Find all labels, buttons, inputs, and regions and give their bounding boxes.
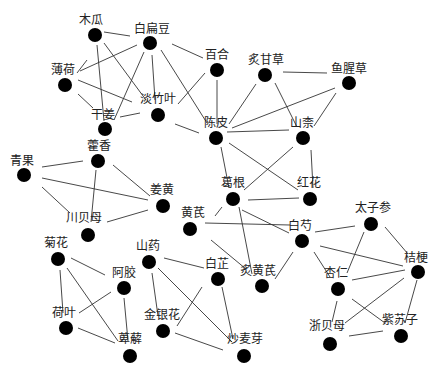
herb-network-graph: 木瓜白扁豆百合薄荷淡竹叶干姜炙甘草鱼腥草陈皮山柰藿香青果姜黄川贝母葛根红花黄芪白… <box>0 0 444 372</box>
graph-edge <box>78 80 132 102</box>
node-label-juhua: 菊花 <box>44 235 68 250</box>
graph-edge <box>177 287 202 326</box>
node-label-bixie: 萆薢 <box>118 332 142 346</box>
node-shanyao <box>142 255 156 269</box>
node-label-jiegeng: 桔梗 <box>404 250 428 265</box>
node-yuxingcao <box>342 76 356 90</box>
graph-edge <box>320 246 403 266</box>
graph-edge <box>349 331 383 336</box>
node-label-xingren: 杏仁 <box>324 266 348 280</box>
graph-edge <box>175 124 199 133</box>
node-bixie <box>123 349 137 363</box>
node-label-zhihuangqi: 炙黄芪 <box>240 263 276 278</box>
graph-edge <box>314 93 336 126</box>
node-label-ganjiang: 干姜 <box>91 108 115 122</box>
graph-edge <box>120 113 140 117</box>
node-huoxiang <box>91 154 105 168</box>
graph-edge <box>352 270 405 280</box>
node-label-jinyinhua: 金银花 <box>144 307 180 322</box>
graph-edge <box>107 210 148 222</box>
node-ganjiang <box>98 122 112 136</box>
graph-edge <box>248 198 299 200</box>
node-huangqi <box>183 222 197 236</box>
node-chaomaiya <box>237 349 251 363</box>
node-label-huangqi: 黄芪 <box>181 206 205 220</box>
node-gegen <box>226 192 240 206</box>
node-label-danzhuye: 淡竹叶 <box>140 92 176 106</box>
node-chuanbeimu <box>81 228 95 242</box>
node-label-heye: 荷叶 <box>52 306 76 320</box>
node-label-chenpi: 陈皮 <box>204 115 228 130</box>
graph-edge <box>227 130 289 132</box>
node-baizhi <box>211 272 225 286</box>
graph-edge <box>244 147 293 190</box>
node-label-jianghuang: 姜黄 <box>150 183 174 197</box>
node-mugua <box>88 28 102 42</box>
graph-edge <box>71 258 105 275</box>
graph-edge <box>161 50 207 123</box>
node-honghua <box>303 192 317 206</box>
node-label-chaomaiya: 炒麦芽 <box>227 332 263 346</box>
node-ejiao <box>117 281 131 295</box>
node-label-shanyao: 山药 <box>136 239 160 253</box>
node-juhua <box>51 252 65 266</box>
node-label-baihe: 百合 <box>205 47 229 62</box>
node-label-zhebeimu: 浙贝母 <box>309 319 345 333</box>
node-chenpi <box>209 131 223 145</box>
node-label-qingguo: 青果 <box>10 154 34 168</box>
graph-edge <box>78 94 93 108</box>
node-heye <box>59 321 73 335</box>
node-label-chuanbeimu: 川贝母 <box>66 211 102 225</box>
node-zhebeimu <box>323 337 337 351</box>
node-label-ejiao: 阿胶 <box>112 265 136 280</box>
node-label-zhigancao: 炙甘草 <box>248 52 284 67</box>
graph-edge <box>164 258 204 268</box>
node-label-baizhi: 白芷 <box>205 256 229 271</box>
node-label-yuxingcao: 鱼腥草 <box>331 62 367 76</box>
graph-edge <box>205 223 290 225</box>
graph-edge <box>172 44 203 58</box>
node-jiegeng <box>411 265 425 279</box>
graph-edge <box>315 226 355 232</box>
node-label-baibiandou: 白扁豆 <box>134 21 170 36</box>
node-label-huoxiang: 藿香 <box>87 139 111 153</box>
nodes-layer <box>17 28 425 363</box>
node-label-gegen: 葛根 <box>221 176 245 190</box>
graph-edge <box>79 292 111 313</box>
node-label-baishao: 白芍 <box>288 218 312 233</box>
labels-layer: 木瓜白扁豆百合薄荷淡竹叶干姜炙甘草鱼腥草陈皮山柰藿香青果姜黄川贝母葛根红花黄芪白… <box>10 13 428 346</box>
graph-edge <box>215 207 222 216</box>
graph-edge <box>113 165 150 196</box>
node-taizishen <box>364 217 378 231</box>
node-zhigancao <box>258 68 272 82</box>
graph-edge <box>352 299 385 323</box>
graph-edge <box>347 232 364 273</box>
graph-edge <box>77 60 87 73</box>
graph-edge <box>78 328 115 343</box>
graph-edge <box>232 88 335 128</box>
graph-edge <box>104 32 130 36</box>
node-label-honghua: 红花 <box>297 175 321 190</box>
node-xingren <box>331 282 345 296</box>
node-qingguo <box>17 168 31 182</box>
node-baishao <box>295 234 309 248</box>
node-label-taizishen: 太子参 <box>355 200 391 215</box>
graph-edge <box>178 73 205 104</box>
node-label-mugua: 木瓜 <box>79 13 103 27</box>
graph-edge <box>385 227 408 254</box>
graph-edge <box>229 84 256 124</box>
node-label-zisuzi: 紫苏子 <box>382 313 418 327</box>
node-zhihuangqi <box>255 279 269 293</box>
node-baibiandou <box>143 36 157 50</box>
node-jianghuang <box>156 199 170 213</box>
node-shannai <box>296 131 310 145</box>
node-baihe <box>210 63 224 77</box>
graph-edge <box>242 210 289 233</box>
graph-edge <box>42 187 70 213</box>
node-zisuzi <box>394 329 408 343</box>
node-danzhuye <box>151 108 165 122</box>
edges-layer <box>42 32 417 350</box>
node-label-shannai: 山柰 <box>290 116 314 130</box>
node-bohe <box>58 78 72 92</box>
graph-edge <box>175 333 223 350</box>
